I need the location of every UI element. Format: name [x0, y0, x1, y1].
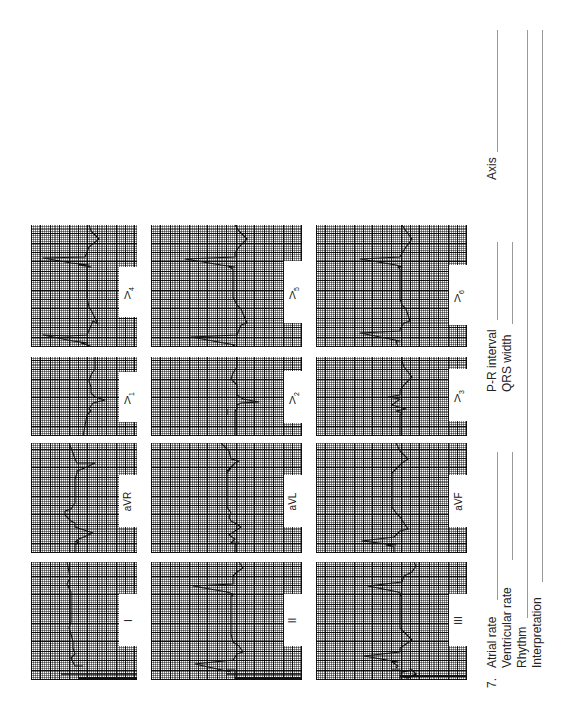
ecg-panel-ii: II: [151, 562, 302, 680]
rhythm-line[interactable]: [527, 30, 528, 618]
ecg-panel-v1: V1: [31, 357, 137, 436]
ecg-panel-v3: V3: [316, 357, 467, 436]
lead-label-v2: V2: [284, 371, 302, 423]
rhythm-label: Rhythm: [515, 627, 529, 668]
qrs-width-line[interactable]: [512, 242, 513, 324]
lead-label-ii: II: [284, 594, 302, 646]
ecg-panel-v6: V6: [316, 225, 467, 347]
ecg-trace-ii: [151, 562, 302, 680]
ecg-panel-v2: V2: [151, 357, 302, 436]
ventricular-rate-line[interactable]: [512, 452, 513, 560]
ecg-panel-v4: V4: [31, 225, 137, 347]
ecg-trace-v6: [316, 225, 467, 347]
lead-label-v4: V4: [119, 267, 137, 317]
interpretation-label: Interpretation: [530, 597, 544, 668]
lead-label-avl: aVL: [284, 475, 302, 527]
ecg-trace-v3: [316, 357, 467, 436]
ecg-panel-avf: aVF: [316, 443, 467, 553]
lead-label-v1: V1: [119, 372, 137, 422]
lead-label-v3: V3: [449, 369, 467, 421]
question-number: 7.: [485, 678, 499, 688]
ecg-trace-avl: [151, 443, 302, 553]
lead-label-avr: aVR: [119, 475, 137, 527]
ecg-panel-avr: aVR: [31, 443, 137, 553]
ecg-trace-v2: [151, 357, 302, 436]
lead-label-v5: V5: [284, 261, 302, 323]
axis-label: Axis: [485, 157, 499, 180]
lead-label-avf: aVF: [449, 475, 467, 527]
ecg-trace-avf: [316, 443, 467, 553]
ecg-panel-v5: V5: [151, 225, 302, 347]
ventricular-rate-label: Ventricular rate: [500, 587, 514, 668]
atrial-rate-label: Atrial rate: [485, 617, 499, 668]
lead-label-iii: III: [449, 594, 467, 646]
atrial-rate-line[interactable]: [497, 452, 498, 600]
ecg-panel-avl: aVL: [151, 443, 302, 553]
interpretation-line[interactable]: [542, 30, 543, 582]
ecg-trace-iii: [316, 562, 467, 680]
qrs-width-label: QRS width: [500, 335, 514, 392]
lead-label-v6: V6: [449, 265, 467, 325]
lead-label-i: I: [119, 594, 137, 646]
ecg-panel-i: I: [31, 562, 137, 680]
ecg-panel-iii: III: [316, 562, 467, 680]
ecg-trace-v5: [151, 225, 302, 347]
pr-interval-line[interactable]: [497, 242, 498, 320]
axis-line[interactable]: [497, 30, 498, 152]
pr-interval-label: P-R interval: [485, 329, 499, 392]
